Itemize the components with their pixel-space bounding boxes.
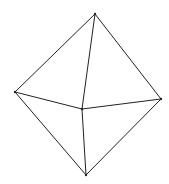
edges-group xyxy=(15,14,161,175)
vertex-right xyxy=(160,98,162,100)
vertex-left xyxy=(14,91,16,93)
edge-left-bottom xyxy=(15,92,86,175)
vertex-center xyxy=(81,108,83,110)
octahedron-diagram xyxy=(0,0,169,184)
edge-right-bottom xyxy=(86,99,161,175)
vertex-top xyxy=(94,13,96,15)
vertices-group xyxy=(14,13,162,176)
vertex-bottom xyxy=(85,174,87,176)
edge-center-right xyxy=(82,99,161,109)
edge-center-bottom xyxy=(82,109,86,175)
edge-top-center xyxy=(82,14,95,109)
edge-top-right xyxy=(95,14,161,99)
edge-left-center xyxy=(15,92,82,109)
edge-top-left xyxy=(15,14,95,92)
